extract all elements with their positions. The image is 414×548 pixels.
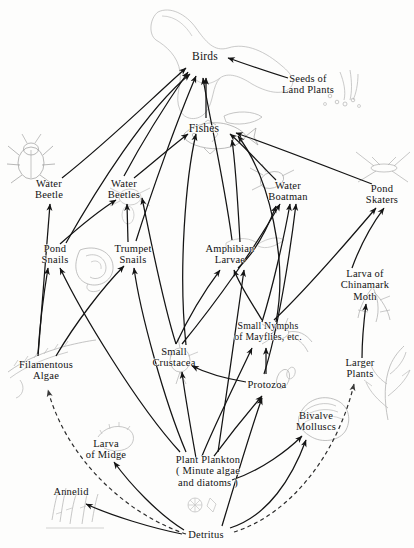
node-small-nymphs-of-mayflies: Small Nymphs of Mayflies, etc. — [234, 321, 302, 342]
arrow-seeds-to-birds — [228, 58, 288, 78]
arrow-detritus-to-larger-plants — [234, 384, 354, 532]
node-filamentous-algae: Filamentous Algae — [19, 359, 73, 382]
node-water-boatman: Water Boatman — [268, 180, 307, 203]
arrow-detritus-to-filamentous-algae — [48, 390, 186, 534]
node-larva-of-midge: Larva of Midge — [86, 438, 126, 461]
node-small-crustacea: Small Crustacea — [152, 346, 195, 369]
arrow-larger-plants-to-chinamark — [362, 304, 366, 358]
arrow-small-crustacea-to-water-beetles — [142, 198, 176, 344]
node-fishes: Fishes — [189, 122, 220, 134]
arrow-trumpet-snails-to-water-beetles — [127, 204, 128, 242]
node-protozoa: Protozoa — [248, 379, 287, 390]
arrow-pond-skaters-to-fishes — [236, 133, 372, 184]
arrow-plankton-to-amphibian — [218, 270, 244, 452]
node-larger-plants: Larger Plants — [333, 357, 387, 380]
node-amphibian-larvae: Amphibian Larvae — [205, 243, 254, 266]
arrow-water-beetles-to-fishes — [134, 134, 188, 178]
node-pond-skaters: Pond Skaters — [366, 183, 398, 206]
node-plant-plankton: Plant Plankton ( Minute algae and diatom… — [176, 454, 240, 488]
node-annelid: Annelid — [53, 486, 88, 497]
node-water-beetle: Water Beetle — [35, 178, 63, 201]
arrow-mayfly-nymphs-to-fishes — [238, 136, 280, 322]
arrow-small-crustacea-to-fishes — [183, 134, 196, 345]
arrow-mayfly-nymphs-to-water-boatman — [262, 204, 290, 322]
node-bivalve-molluscs: Bivalve Molluscs — [296, 410, 336, 433]
arrow-plankton-to-small-crustacea — [182, 372, 196, 458]
arrow-protozoa-to-small-crustacea — [192, 366, 246, 382]
node-water-beetles: Water Beetles — [108, 178, 140, 201]
arrow-detritus-to-bivalve — [230, 440, 306, 528]
pond-food-web-figure: Birds Seeds of Land Plants Fishes Water … — [0, 0, 414, 548]
node-trumpet-snails: Trumpet Snails — [114, 243, 151, 266]
arrow-mayfly-nymphs-to-pond-skaters — [274, 208, 376, 320]
arrow-amphibian-larvae-to-birds — [203, 78, 232, 240]
node-detritus: Detritus — [188, 529, 223, 540]
arrow-pond-snails-to-birds — [66, 74, 190, 243]
arrow-amphibian-larvae-to-fishes — [232, 140, 240, 242]
node-birds: Birds — [192, 50, 218, 62]
arrow-water-beetle-to-birds — [62, 68, 186, 178]
arrow-trumpet-snails-to-birds — [136, 76, 196, 241]
arrow-algae-to-pond-snails — [38, 268, 48, 354]
arrow-detritus-to-midge — [114, 462, 184, 530]
node-larva-of-chinamark-moth: Larva of Chinamark Moth — [341, 268, 389, 302]
node-seeds-of-land-plants: Seeds of Land Plants — [282, 73, 334, 96]
node-pond-snails: Pond Snails — [42, 243, 69, 266]
